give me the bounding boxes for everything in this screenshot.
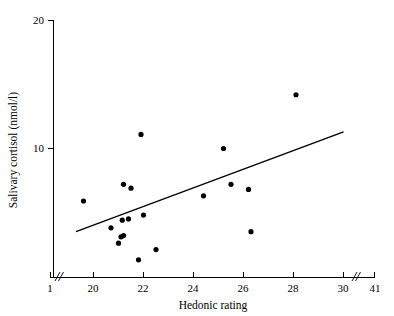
x-axis-title: Hedonic rating <box>179 299 248 312</box>
data-point <box>126 216 131 221</box>
x-tick-label-28: 28 <box>288 282 300 294</box>
data-point <box>138 132 143 137</box>
x-axis-break-left-icon <box>55 272 64 281</box>
x-axis-break-right-icon <box>352 272 361 281</box>
x-tick-label-1: 1 <box>47 282 53 294</box>
x-tick-label-22: 22 <box>138 282 149 294</box>
x-tick-label-24: 24 <box>188 282 200 294</box>
data-point <box>121 182 126 187</box>
data-point <box>293 92 298 97</box>
data-point <box>121 233 126 238</box>
data-point <box>201 193 206 198</box>
data-point <box>108 225 113 230</box>
x-tick-label-41: 41 <box>370 282 381 294</box>
data-point <box>141 212 146 217</box>
x-tick-label-30: 30 <box>338 282 350 294</box>
regression-line <box>76 132 344 232</box>
data-point <box>153 247 158 252</box>
data-point <box>136 257 141 262</box>
data-points-group <box>81 92 299 262</box>
data-point <box>228 182 233 187</box>
data-point <box>120 218 125 223</box>
data-point <box>248 229 253 234</box>
y-tick-label-20: 20 <box>33 14 45 26</box>
data-point <box>221 146 226 151</box>
y-axis-title: Salivary cortisol (nmol/l) <box>7 92 20 208</box>
scatter-plot-figure: 20 10 1 20 22 24 26 28 30 41 Hedonic rat… <box>0 0 394 316</box>
x-tick-label-26: 26 <box>238 282 250 294</box>
data-point <box>128 186 133 191</box>
data-point <box>246 187 251 192</box>
data-point <box>81 198 86 203</box>
y-tick-label-10: 10 <box>33 142 45 154</box>
x-tick-label-20: 20 <box>88 282 100 294</box>
data-point <box>116 241 121 246</box>
chart-canvas: 20 10 1 20 22 24 26 28 30 41 Hedonic rat… <box>0 0 394 316</box>
